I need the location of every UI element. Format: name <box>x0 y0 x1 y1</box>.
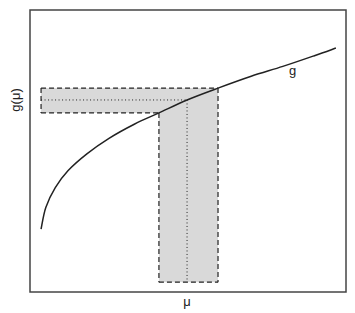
y-axis-label: g(μ) <box>8 88 23 111</box>
bands-layer <box>41 88 218 282</box>
curve-label-g: g <box>289 63 296 78</box>
plot-canvas: g μ g(μ) <box>0 0 355 313</box>
x-axis-label: μ <box>183 294 191 309</box>
vertical-band <box>159 88 218 282</box>
